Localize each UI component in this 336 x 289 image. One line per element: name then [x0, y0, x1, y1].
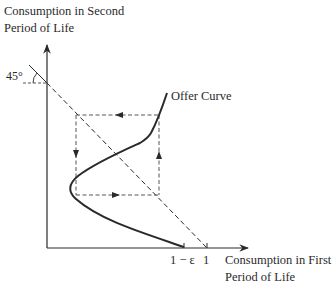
arrow-right-icon — [112, 192, 120, 198]
arrow-left-icon — [115, 112, 123, 118]
offer-curve — [70, 93, 184, 247]
diagonal-dashed-line — [47, 83, 207, 248]
angle-arc — [33, 73, 37, 83]
arrow-down-icon — [73, 150, 79, 158]
diagonal-solid-segment — [29, 65, 47, 83]
offer-curve-diagram — [0, 0, 336, 289]
arrow-up-icon — [156, 151, 162, 159]
